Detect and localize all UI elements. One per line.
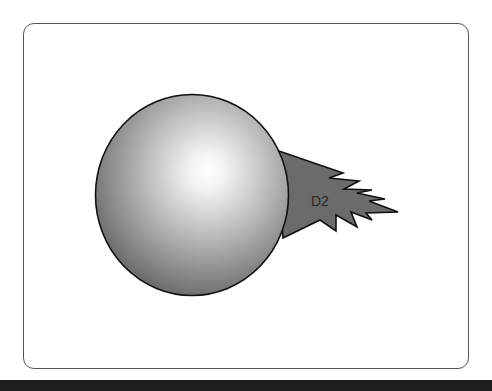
sphere — [96, 95, 289, 296]
bottom-bar — [0, 380, 492, 391]
d2-label: D2 — [311, 193, 329, 209]
d2-beam — [276, 150, 398, 238]
diagram-canvas: D2 — [0, 0, 492, 391]
